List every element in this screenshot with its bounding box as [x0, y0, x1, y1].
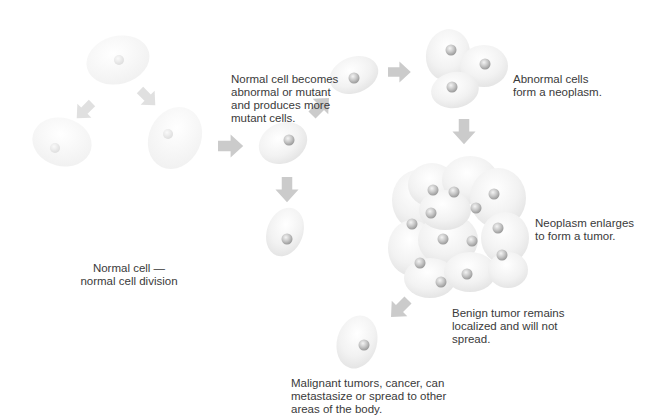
normal-daughter-cell-right: [138, 98, 212, 178]
nucleus-icon: [415, 258, 426, 269]
arrow-down-left-icon: [70, 96, 99, 125]
nucleus-icon: [447, 82, 458, 93]
normal-cell-group: [27, 29, 212, 178]
nucleus-icon: [426, 208, 437, 219]
arrow-down-right-icon: [133, 83, 162, 112]
nucleus-icon: [446, 45, 457, 56]
tumor-group: [388, 156, 529, 298]
nucleus-icon: [114, 55, 124, 65]
label-malignant: Malignant tumors, cancer, can metastasiz…: [291, 377, 471, 416]
arrow-down-icon: [452, 119, 475, 144]
neoplasm-group: [422, 26, 508, 145]
arrow-down-left-icon: [383, 292, 416, 325]
nucleus-icon: [497, 250, 508, 261]
nucleus-icon: [462, 269, 473, 280]
label-mutation: Normal cell becomes abnormal or mutant a…: [231, 73, 361, 125]
nucleus-icon: [407, 219, 418, 230]
nucleus-icon: [449, 187, 460, 198]
nucleus-icon: [493, 223, 504, 234]
normal-daughter-cell-left: [27, 111, 97, 173]
diagram-artwork: [0, 0, 663, 419]
metastatic-cell-group: [331, 311, 384, 374]
nucleus-icon: [480, 59, 491, 70]
nucleus-icon: [467, 236, 478, 247]
label-benign: Benign tumor remains localized and will …: [452, 307, 592, 346]
nucleus-icon: [282, 234, 293, 245]
nucleus-icon: [471, 203, 482, 214]
nucleus-icon: [489, 189, 500, 200]
nucleus-icon: [163, 129, 173, 139]
arrow-down-icon: [275, 177, 298, 202]
nucleus-icon: [436, 277, 447, 288]
arrow-right-icon: [388, 62, 411, 83]
arrow-right-icon: [218, 134, 243, 157]
cancer-progression-diagram: Normal cell — normal cell division Norma…: [0, 0, 663, 419]
nucleus-icon: [284, 135, 295, 146]
nucleus-icon: [359, 340, 370, 351]
nucleus-icon: [428, 185, 439, 196]
nucleus-icon: [438, 234, 449, 245]
nucleus-icon: [50, 143, 60, 153]
label-tumor: Neoplasm enlarges to form a tumor.: [535, 217, 663, 243]
label-normal-division: Normal cell — normal cell division: [64, 262, 194, 288]
label-neoplasm: Abnormal cells form a neoplasm.: [513, 73, 643, 99]
